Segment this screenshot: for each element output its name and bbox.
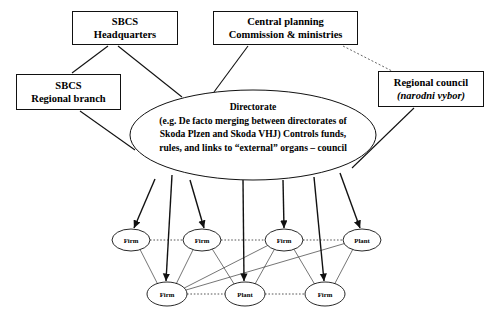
box-regional-council: Regional council (narodni vybor) bbox=[378, 71, 484, 107]
diagram-canvas bbox=[0, 0, 489, 319]
arrow-layer bbox=[134, 173, 360, 281]
firm-1-to-firm-4 bbox=[140, 249, 158, 285]
box-regional-council-line-1: Regional council bbox=[394, 76, 468, 89]
arrow-to-firm-2 bbox=[190, 180, 204, 228]
directorate-ellipse bbox=[130, 90, 376, 180]
firm-3-to-firm-5 bbox=[293, 248, 315, 285]
box-sbcs-regional-branch-line-2: Regional branch bbox=[31, 92, 105, 105]
box-sbcs-headquarters-line-1: SBCS bbox=[112, 15, 138, 28]
plant-2 bbox=[225, 282, 265, 306]
plant-1 bbox=[343, 229, 381, 251]
firm-4 bbox=[147, 282, 187, 306]
box-central-planning-line-2: Commission & ministries bbox=[229, 28, 343, 41]
arrow-to-plant-2 bbox=[243, 180, 244, 281]
cpc-to-ellipse bbox=[214, 46, 248, 92]
box-central-planning: Central planning Commission & ministries bbox=[213, 11, 358, 45]
leaf-node-layer bbox=[112, 229, 381, 306]
box-sbcs-headquarters: SBCS Headquarters bbox=[72, 11, 178, 45]
hq-to-ellipse bbox=[118, 46, 182, 97]
box-sbcs-headquarters-line-2: Headquarters bbox=[94, 28, 156, 41]
directorate-ellipse-layer bbox=[130, 90, 376, 180]
arrow-to-firm-5 bbox=[314, 177, 324, 281]
hq-to-directorate-left bbox=[72, 46, 108, 73]
organizational-diagram: Directorate (e.g. De facto merging betwe… bbox=[0, 0, 489, 319]
dotted-link-layer bbox=[343, 46, 392, 71]
firm-2-to-firm-4 bbox=[176, 249, 194, 285]
box-sbcs-regional-branch: SBCS Regional branch bbox=[16, 74, 121, 110]
regional-branch-to-ellipse bbox=[80, 111, 135, 150]
box-regional-council-line-2: (narodni vybor) bbox=[397, 89, 465, 102]
cpc-to-regional-council bbox=[343, 46, 392, 71]
box-sbcs-regional-branch-line-1: SBCS bbox=[55, 79, 81, 92]
firm-5 bbox=[305, 282, 345, 306]
plant-1-to-firm-5 bbox=[334, 249, 353, 285]
arrow-to-plant-1 bbox=[340, 173, 360, 228]
firm-2-to-plant-2 bbox=[212, 248, 235, 285]
firm-2 bbox=[183, 229, 221, 251]
firm-1 bbox=[112, 229, 150, 251]
arrow-to-firm-3 bbox=[283, 180, 284, 228]
firm-3 bbox=[265, 229, 303, 251]
arrow-to-firm-1 bbox=[134, 179, 155, 228]
arrow-to-firm-4 bbox=[166, 175, 172, 281]
box-central-planning-line-1: Central planning bbox=[247, 15, 324, 28]
firm-3-to-firm-4 bbox=[182, 244, 270, 289]
